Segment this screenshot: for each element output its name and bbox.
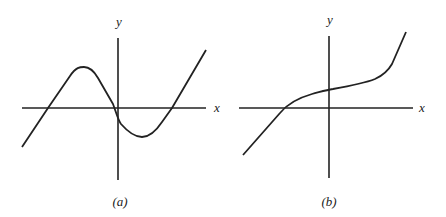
panel-b-x-label: x: [418, 100, 425, 115]
panel-a-caption: (a): [112, 194, 127, 209]
panel-b-curve: [243, 32, 406, 155]
panel-a-y-label: y: [114, 14, 122, 29]
figure-canvas: y x (a) y x (b): [0, 0, 446, 217]
panel-b: y x (b): [239, 12, 425, 209]
panel-b-caption: (b): [321, 194, 336, 209]
panel-a-x-label: x: [213, 100, 220, 115]
panel-a: y x (a): [22, 14, 220, 209]
panel-b-y-label: y: [325, 12, 333, 27]
panel-a-curve: [22, 50, 206, 147]
